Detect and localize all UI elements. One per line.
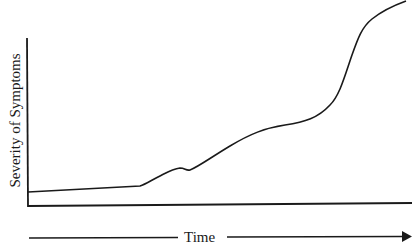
time-arrow-right-line [227,237,403,238]
arrow-head-icon [402,231,412,242]
x-axis [28,203,412,206]
chart-canvas [0,0,419,250]
severity-curve [28,1,406,192]
time-arrow-left-line [29,238,178,239]
y-axis-label-container: Severity of Symptoms [5,40,25,200]
y-axis [27,38,28,207]
x-axis-label: Time [181,229,218,246]
y-axis-label: Severity of Symptoms [7,53,24,187]
